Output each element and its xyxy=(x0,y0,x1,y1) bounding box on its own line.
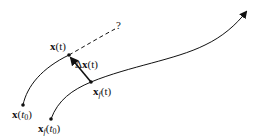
extrapolation-dashed-curve xyxy=(69,29,115,55)
point-x-t0 xyxy=(21,103,25,107)
label-x-t0: x(t0) xyxy=(12,108,32,122)
label-question: ? xyxy=(116,19,121,31)
trajectory-diagram: x(t) ? Δx(t) xf(t) x(t0) xf(t0) xyxy=(0,0,258,140)
label-xf-t0: xf(t0) xyxy=(38,122,60,136)
label-x-t: x(t) xyxy=(50,40,66,53)
point-xf-t xyxy=(89,80,93,84)
perturbed-trajectory-curve xyxy=(23,55,69,105)
label-xf-t: xf(t) xyxy=(93,85,111,99)
label-delta-x: Δx(t) xyxy=(75,58,98,71)
point-xf-t0 xyxy=(49,117,53,121)
point-x-t xyxy=(67,53,71,57)
